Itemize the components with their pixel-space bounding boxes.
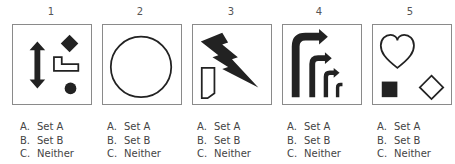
right-turn-arrow-tiny-icon <box>338 84 343 97</box>
figure-5 <box>373 25 451 104</box>
answer-options: A.Set A B.Set B C.Neither <box>377 120 431 161</box>
answer-options: A.Set A B.Set B C.Neither <box>20 120 74 161</box>
circle-outline-icon <box>111 37 171 97</box>
figure-box <box>372 24 452 105</box>
question-number: 3 <box>185 6 277 17</box>
figure-box <box>12 24 92 105</box>
option-c[interactable]: C.Neither <box>287 147 341 161</box>
figure-box <box>282 24 362 105</box>
question-item-5: 5 A.Set A B.Set B C.Neither <box>360 0 452 164</box>
option-a[interactable]: A.Set A <box>377 120 431 134</box>
option-a[interactable]: A.Set A <box>287 120 341 134</box>
question-item-4: 4 A.Set A B.Set B C.Neither <box>270 0 362 164</box>
heart-outline-icon <box>381 35 414 68</box>
option-c[interactable]: C.Neither <box>107 147 161 161</box>
tag-icon <box>202 68 215 98</box>
figure-box <box>192 24 272 105</box>
figure-2 <box>103 25 181 104</box>
answer-options: A.Set A B.Set B C.Neither <box>287 120 341 161</box>
lightning-bolt-icon <box>201 33 259 88</box>
option-a[interactable]: A.Set A <box>20 120 74 134</box>
filled-square-icon <box>382 82 398 98</box>
answer-options: A.Set A B.Set B C.Neither <box>107 120 161 161</box>
question-number: 2 <box>94 6 186 17</box>
diamond-outline-icon <box>420 76 443 99</box>
question-item-2: 2 A.Set A B.Set B C.Neither <box>95 0 187 164</box>
option-b[interactable]: B.Set B <box>287 134 341 148</box>
option-b[interactable]: B.Set B <box>377 134 431 148</box>
question-number: 1 <box>5 6 97 17</box>
figure-1 <box>13 25 91 104</box>
figure-4 <box>283 25 361 104</box>
option-b[interactable]: B.Set B <box>107 134 161 148</box>
option-b[interactable]: B.Set B <box>20 134 74 148</box>
option-c[interactable]: C.Neither <box>377 147 431 161</box>
question-item-3: 3 A.Set A B.Set B C.Neither <box>185 0 277 164</box>
question-number: 5 <box>364 6 455 17</box>
figure-box <box>102 24 182 105</box>
l-shape-icon <box>54 57 78 71</box>
option-a[interactable]: A.Set A <box>197 120 251 134</box>
option-c[interactable]: C.Neither <box>197 147 251 161</box>
option-b[interactable]: B.Set B <box>197 134 251 148</box>
dot-icon <box>65 83 77 95</box>
figure-3 <box>193 25 271 104</box>
option-a[interactable]: A.Set A <box>107 120 161 134</box>
double-arrow-icon <box>30 42 46 89</box>
option-c[interactable]: C.Neither <box>20 147 74 161</box>
answer-options: A.Set A B.Set B C.Neither <box>197 120 251 161</box>
question-item-1: 1 A.Set A B.Set B C.Neither <box>0 0 92 164</box>
question-number: 4 <box>273 6 365 17</box>
diamond-icon <box>61 35 79 53</box>
